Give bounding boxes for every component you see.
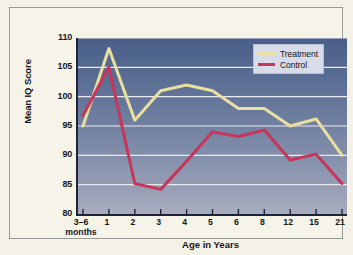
y-axis-tick-labels: 80859095100105110: [40, 38, 72, 214]
y-axis-tick-label: 110: [46, 32, 72, 42]
y-axis-title: Mean IQ Score: [22, 52, 33, 132]
x-axis-tick-sublabel: months: [64, 227, 98, 237]
legend-swatch: [258, 52, 275, 56]
y-axis-tick-label: 85: [46, 179, 72, 189]
y-axis-tick-label: 95: [46, 120, 72, 130]
legend-label: Treatment: [280, 49, 318, 59]
x-axis-title: Age in Years: [76, 239, 345, 250]
chart-legend: TreatmentControl: [253, 44, 324, 74]
y-axis-tick-label: 105: [46, 61, 72, 71]
x-axis-tick-label: 21: [323, 217, 353, 227]
legend-swatch: [258, 63, 275, 67]
legend-label: Control: [280, 60, 307, 70]
y-axis-tick-label: 100: [46, 91, 72, 101]
y-axis-tick-label: 90: [46, 149, 72, 159]
chart-frame: Mean IQ Score 80859095100105110 3–6month…: [9, 7, 343, 239]
legend-item: Treatment: [258, 48, 318, 59]
chart-figure: Mean IQ Score 80859095100105110 3–6month…: [0, 0, 353, 255]
legend-item: Control: [258, 59, 318, 70]
